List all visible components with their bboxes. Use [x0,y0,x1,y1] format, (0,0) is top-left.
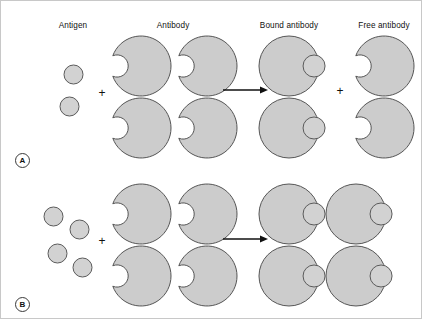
antibody-bound [256,33,336,99]
antigen-particle [58,95,81,118]
antigen-particle [46,242,69,265]
antibody-free [109,244,173,308]
panel-label-b: B [15,297,30,312]
column-header-antibody: Antibody [157,21,190,30]
column-header-free-antibody: Free antibody [358,21,409,30]
plus-operator-panel-b-reactants: + [98,235,105,247]
antibody-bound [323,243,403,309]
antigen-particle [62,63,85,86]
column-header-bound-antibody: Bound antibody [260,21,318,30]
antigen-particle [68,218,91,241]
immunoassay-diagram: AntigenAntibodyBound antibodyFree antibo… [0,0,422,319]
plus-operator-panel-a-reactants: + [98,87,105,99]
antibody-bound [323,181,403,247]
antigen-particle [71,256,94,279]
plus-operator-panel-a-products: + [336,85,343,97]
antibody-free [109,96,173,160]
antibody-free-unbound [352,96,416,160]
antibody-free [109,34,173,98]
antigen-particle [42,205,65,228]
antibody-bound [256,95,336,161]
reaction-arrow-panel-a [223,81,268,99]
column-header-antigen: Antigen [59,21,87,30]
panel-label-a: A [15,153,30,168]
antibody-free [109,182,173,246]
antibody-free [175,96,239,160]
reaction-arrow-panel-b [223,230,268,248]
antibody-free-unbound [352,34,416,98]
antibody-free [175,244,239,308]
